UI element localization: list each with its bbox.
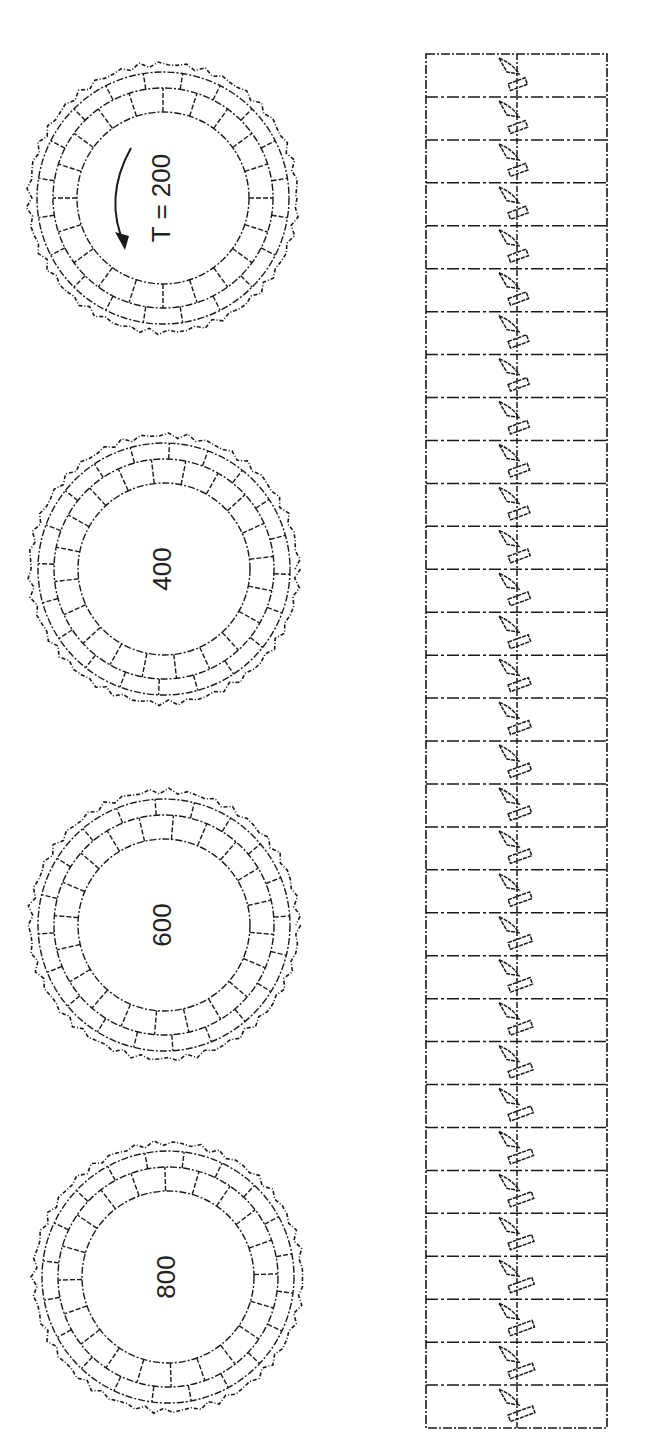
blade-strip [426, 54, 607, 1428]
blade-pair [499, 1089, 533, 1121]
ring-label: T = 200 [146, 154, 176, 242]
ring-1: 400 [28, 433, 300, 706]
blade-pair [499, 230, 528, 262]
blade-pair [499, 187, 528, 219]
blade-pair [499, 1131, 533, 1163]
blade-pair [499, 659, 531, 691]
ring-2: 600 [28, 788, 301, 1061]
ring-label: 800 [151, 1255, 181, 1298]
blade-pair [499, 1389, 535, 1421]
blade-pair [499, 831, 532, 863]
figure-canvas: T = 200400600800 [0, 0, 658, 1451]
ring-3: 800 [31, 1141, 303, 1413]
ring-0: T = 200 [26, 62, 298, 335]
blade-pair [499, 1046, 533, 1078]
blade-pair [499, 316, 529, 348]
blade-pair [499, 101, 528, 133]
blade-pair [499, 960, 533, 992]
blade-pair [499, 616, 531, 648]
rings-group: T = 200400600800 [26, 62, 302, 1413]
blade-pair [499, 444, 530, 476]
blade-pair [499, 1003, 533, 1035]
blade-pair [499, 917, 532, 949]
blade-pair [499, 144, 528, 176]
blade-pair [499, 745, 531, 777]
ring-label: 600 [147, 903, 177, 946]
blade-pair [499, 273, 529, 305]
ring-label: 400 [147, 547, 177, 590]
blade-pair [499, 359, 529, 391]
blade-pair [499, 402, 529, 434]
blade-pair [499, 58, 527, 90]
blade-pair [499, 788, 532, 820]
blade-pair [499, 573, 530, 605]
rotation-arrow-icon [115, 148, 131, 250]
blade-pair [499, 530, 530, 562]
blade-pair [499, 874, 532, 906]
blade-pair [499, 487, 530, 519]
blade-pair [499, 702, 531, 734]
